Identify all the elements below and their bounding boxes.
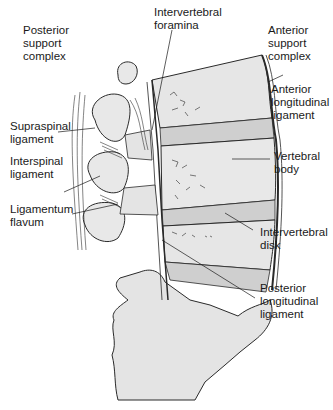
label-intervertebral-foramina: Intervertebral foramina [154, 6, 222, 32]
vertebral-body-lower [163, 220, 275, 270]
spinous-process-upper [92, 94, 130, 141]
label-supraspinal-ligament: Supraspinal ligament [10, 120, 71, 146]
articular-process-top [118, 62, 138, 84]
vertebral-body-middle [161, 138, 276, 210]
spine-diagram: Posterior support complex Intervertebral… [0, 0, 333, 410]
vertebral-body-upper [152, 55, 272, 128]
label-intervertebral-disk: Intervertebral disk [260, 226, 328, 252]
label-anterior-support-complex: Anterior support complex [268, 24, 311, 63]
label-interspinal-ligament: Interspinal ligament [10, 155, 63, 181]
label-anterior-longitudinal-ligament: Anterior longitudinal ligament [271, 83, 329, 122]
label-ligamentum-flavum: Ligamentum flavum [10, 203, 73, 229]
spinous-process-middle [88, 152, 128, 193]
label-vertebral-body: Vertebral body [274, 150, 320, 176]
label-posterior-support-complex: Posterior support complex [23, 24, 69, 63]
spinous-process-lower [83, 202, 125, 241]
label-posterior-longitudinal-ligament: Posterior longitudinal ligament [260, 282, 318, 321]
